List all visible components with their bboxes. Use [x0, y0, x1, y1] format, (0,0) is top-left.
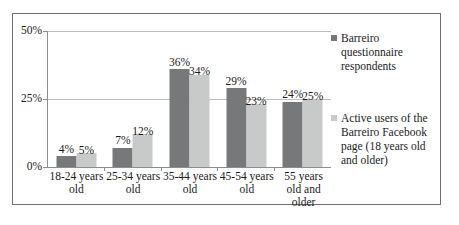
y-axis-label-0: 0%: [27, 161, 42, 173]
bar-group: 7%12%: [105, 31, 162, 167]
bar-group: 24%25%: [274, 31, 331, 167]
legend-label-series-0: Barreiro questionnaire respondents: [341, 31, 439, 73]
legend-swatch-icon-series-0: [331, 35, 337, 41]
legend-item-facebook-active-users[interactable]: Active users of the Barreiro Facebook pa…: [331, 111, 439, 167]
bar-pair: 7%12%: [112, 31, 153, 167]
x-axis-labels: 18-24 years old25-34 years old35-44 year…: [48, 170, 332, 209]
bar-pair: 4%5%: [56, 31, 97, 167]
bar-pair: 36%34%: [169, 31, 210, 167]
bar-value-label: 7%: [115, 135, 130, 147]
x-axis-label-4: 55 years old and older: [275, 170, 332, 209]
bar-series-0[interactable]: 29%: [226, 88, 246, 167]
plot-area: 50% 25% 0% 4%5%7%12%36%34%29%23%24%25%: [47, 31, 331, 167]
bar-group: 36%34%: [161, 31, 218, 167]
bar-group: 29%23%: [218, 31, 275, 167]
bar-group: 4%5%: [48, 31, 105, 167]
bar-series-0[interactable]: 24%: [283, 102, 303, 167]
y-axis-label-50: 50%: [21, 25, 42, 37]
bar-value-label: 25%: [302, 91, 323, 103]
bar-groups: 4%5%7%12%36%34%29%23%24%25%: [48, 31, 331, 167]
y-axis-tick-25: [43, 99, 47, 100]
bar-series-1[interactable]: 25%: [303, 99, 323, 167]
legend-swatch-icon-series-1: [331, 115, 337, 121]
bar-series-1[interactable]: 5%: [76, 153, 96, 167]
legend-item-questionnaire-respondents[interactable]: Barreiro questionnaire respondents: [331, 31, 439, 73]
x-axis-label-1: 25-34 years old: [105, 170, 162, 209]
bar-value-label: 12%: [132, 126, 153, 138]
bar-pair: 29%23%: [226, 31, 267, 167]
chart-frame: 50% 25% 0% 4%5%7%12%36%34%29%23%24%25% 1…: [12, 13, 441, 205]
x-axis-label-2: 35-44 years old: [162, 170, 219, 209]
y-axis-label-25: 25%: [21, 93, 42, 105]
chart-legend: Barreiro questionnaire respondents Activ…: [331, 31, 439, 167]
bar-series-1[interactable]: 23%: [246, 104, 266, 167]
x-axis-label-3: 45-54 years old: [218, 170, 275, 209]
bar-series-1[interactable]: 34%: [189, 75, 209, 167]
bar-series-1[interactable]: 12%: [133, 134, 153, 167]
bar-pair: 24%25%: [282, 31, 323, 167]
y-axis-tick-0: [43, 167, 47, 168]
bar-value-label: 34%: [189, 66, 210, 78]
bar-value-label: 4%: [59, 144, 74, 156]
x-axis-line: [47, 167, 331, 168]
legend-label-series-1: Active users of the Barreiro Facebook pa…: [341, 111, 439, 167]
bar-value-label: 24%: [282, 89, 303, 101]
bar-value-label: 5%: [79, 145, 94, 157]
bar-series-0[interactable]: 4%: [56, 156, 76, 167]
bar-value-label: 29%: [226, 76, 247, 88]
bar-value-label: 23%: [246, 96, 267, 108]
bar-series-0[interactable]: 36%: [169, 69, 189, 167]
y-axis-tick-50: [43, 31, 47, 32]
bar-value-label: 36%: [169, 57, 190, 69]
bar-series-0[interactable]: 7%: [113, 148, 133, 167]
x-axis-label-0: 18-24 years old: [48, 170, 105, 209]
